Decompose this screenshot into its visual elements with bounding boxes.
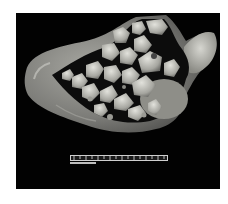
scale-ruler	[70, 155, 168, 164]
specimen-photo	[16, 13, 220, 189]
gallbladder-specimen-illustration	[16, 13, 220, 189]
